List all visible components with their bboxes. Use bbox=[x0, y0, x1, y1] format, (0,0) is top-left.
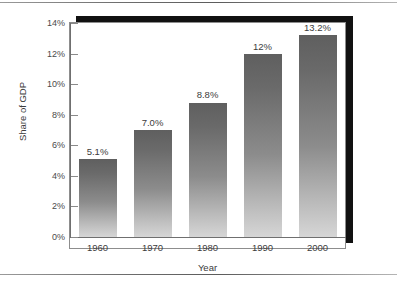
bars-container bbox=[70, 23, 345, 237]
y-axis-tick-label: 10% bbox=[5, 79, 65, 89]
y-axis-tick bbox=[71, 237, 78, 238]
y-axis-title: Share of GDP bbox=[17, 52, 28, 172]
y-axis-tick-label: 14% bbox=[5, 18, 65, 28]
bar bbox=[244, 54, 282, 237]
bar-value-label: 7.0% bbox=[118, 117, 188, 128]
x-axis-tick-label: 2000 bbox=[283, 242, 353, 253]
bar-value-label: 5.1% bbox=[63, 146, 133, 157]
page-rule-top bbox=[0, 2, 397, 3]
bar bbox=[79, 159, 117, 237]
bar-chart-figure: 0%2%4%6%8%10%12%14% 5.1%7.0%8.8%12%13.2%… bbox=[0, 6, 397, 272]
bar bbox=[189, 103, 227, 238]
bar bbox=[134, 130, 172, 237]
bar-value-label: 13.2% bbox=[283, 22, 353, 33]
y-axis-tick-label: 6% bbox=[5, 140, 65, 150]
y-axis-tick-label: 12% bbox=[5, 49, 65, 59]
bar-value-label: 12% bbox=[228, 41, 298, 52]
y-axis-tick-label: 2% bbox=[5, 201, 65, 211]
bar bbox=[299, 35, 337, 237]
y-axis-tick-label: 8% bbox=[5, 110, 65, 120]
y-axis-tick-label: 0% bbox=[5, 232, 65, 242]
x-axis-title: Year bbox=[69, 262, 346, 273]
bar-value-label: 8.8% bbox=[173, 89, 243, 100]
page-rule-bottom bbox=[0, 274, 397, 275]
y-axis-tick-label: 4% bbox=[5, 171, 65, 181]
x-axis-line bbox=[70, 237, 346, 238]
